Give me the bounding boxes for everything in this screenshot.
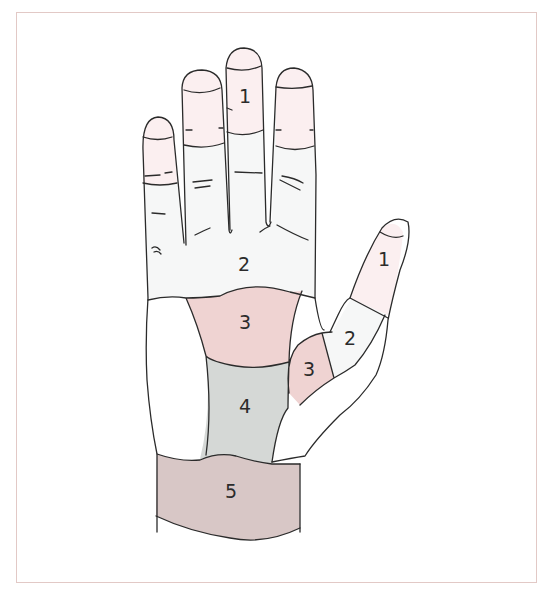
hand-diagram: 1 2 3 4 5 1 2 3	[0, 0, 545, 594]
label-zone-4-palm: 4	[239, 395, 251, 417]
label-zone-2-palm: 2	[238, 253, 250, 275]
label-zone-2-thumb: 2	[344, 327, 356, 349]
label-zone-3-thumb: 3	[303, 358, 315, 380]
label-zone-3-palm: 3	[239, 311, 251, 333]
label-zone-5-wrist: 5	[225, 480, 237, 502]
label-zone-1-finger: 1	[239, 85, 251, 107]
zone-1-ring-finger	[182, 70, 224, 147]
zone-1-index-finger	[276, 68, 314, 150]
label-zone-1-thumb: 1	[378, 248, 390, 270]
